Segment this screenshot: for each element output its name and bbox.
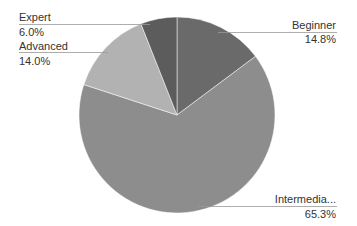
slice-label-expert: Expert	[19, 11, 51, 23]
slice-pct-advanced: 14.0%	[19, 55, 50, 67]
slice-label-intermediate: Intermedia...	[275, 193, 336, 205]
slice-pct-beginner: 14.8%	[305, 33, 336, 45]
slice-label-advanced: Advanced	[19, 40, 68, 52]
pie-chart: Expert 6.0% Advanced 14.0% Beginner 14.8…	[0, 0, 357, 226]
slice-pct-intermediate: 65.3%	[305, 208, 336, 220]
slice-pct-expert: 6.0%	[19, 26, 44, 38]
pie-slices	[79, 17, 275, 213]
slice-label-beginner: Beginner	[292, 19, 336, 31]
